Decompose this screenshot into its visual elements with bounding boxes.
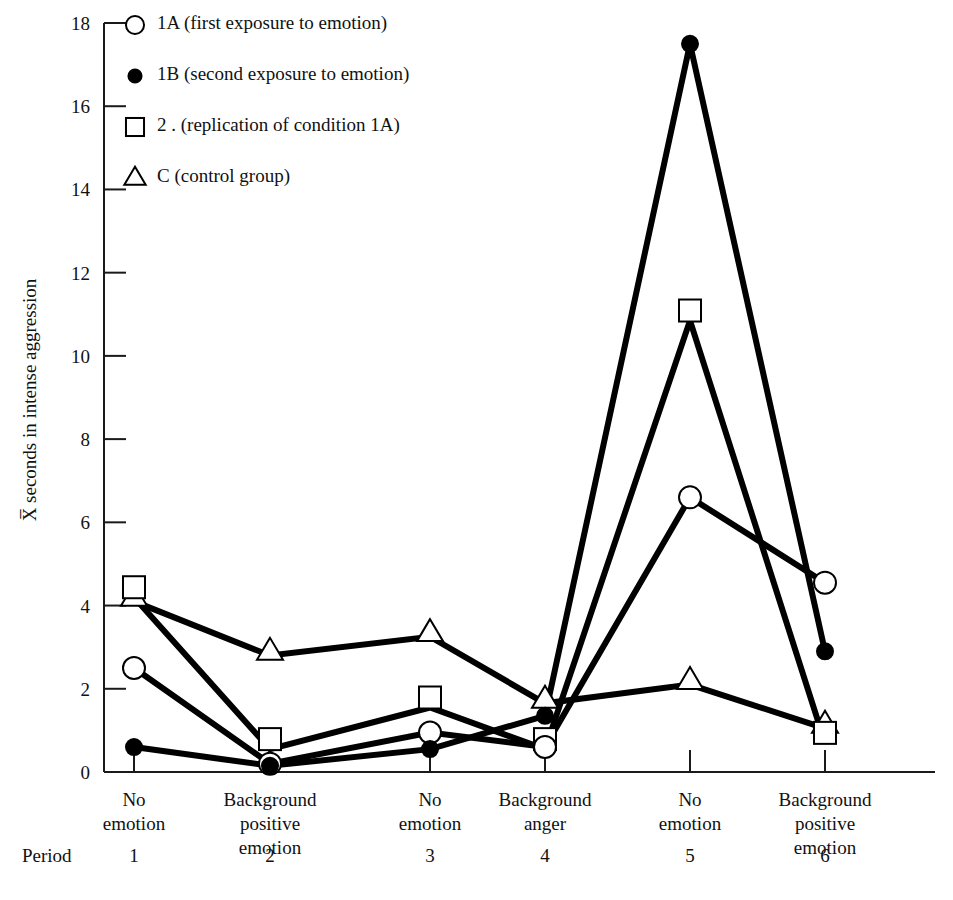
legend: 1A (first exposure to emotion)1B (second… (124, 12, 409, 187)
category-line: Background (499, 789, 592, 810)
category-line: Background (779, 789, 872, 810)
category-line: emotion (659, 813, 722, 834)
category-line: anger (524, 813, 567, 834)
x-category-label-4: Backgroundanger (499, 789, 592, 834)
data-point-2-period-3 (419, 687, 441, 709)
data-point-1A-period-4 (534, 736, 556, 758)
period-number-5: 5 (685, 845, 695, 866)
data-point-C-period-5 (677, 667, 703, 689)
y-tick-label-2: 2 (81, 679, 91, 700)
legend-label-2: 2 . (replication of condition 1A) (157, 114, 400, 136)
x-category-label-1: Noemotion (103, 789, 166, 834)
data-point-2-period-1 (123, 576, 145, 598)
legend-item-0: 1A (first exposure to emotion) (126, 12, 387, 34)
y-axis-tick-labels: 024681012141618 (71, 13, 91, 783)
legend-marker-filled-circle-icon (128, 69, 141, 82)
legend-item-3: C (control group) (124, 165, 290, 187)
data-point-1B-period-1 (126, 739, 142, 755)
data-point-C-period-3 (417, 619, 443, 641)
period-number-6: 6 (820, 845, 830, 866)
period-number-4: 4 (540, 845, 550, 866)
y-tick-label-16: 16 (71, 96, 90, 117)
x-axis-category-labels: NoemotionBackgroundpositiveemotionNoemot… (103, 789, 872, 858)
data-point-1A-period-5 (679, 486, 701, 508)
legend-marker-open-square-icon (126, 118, 144, 136)
y-tick-label-8: 8 (81, 429, 91, 450)
period-row-title: Period (22, 845, 72, 866)
category-line: emotion (103, 813, 166, 834)
legend-item-1: 1B (second exposure to emotion) (128, 63, 409, 85)
data-point-1B-period-2 (262, 758, 278, 774)
y-tick-label-12: 12 (71, 263, 90, 284)
category-line: No (418, 789, 441, 810)
category-line: positive (795, 813, 855, 834)
y-tick-label-4: 4 (81, 596, 91, 617)
legend-marker-open-circle-icon (126, 16, 144, 34)
aggression-line-chart: 024681012141618 X̅ seconds in intense ag… (0, 0, 953, 900)
data-point-2-period-5 (679, 300, 701, 322)
data-point-1A-period-6 (814, 572, 836, 594)
data-point-1B-period-4 (537, 708, 553, 724)
y-axis-title: X̅ seconds in intense aggression (19, 278, 40, 521)
y-tick-label-0: 0 (81, 762, 91, 783)
category-line: Background (224, 789, 317, 810)
legend-item-2: 2 . (replication of condition 1A) (126, 114, 400, 136)
y-tick-label-6: 6 (81, 512, 91, 533)
x-category-label-5: Noemotion (659, 789, 722, 834)
category-line: No (122, 789, 145, 810)
period-numbers: 123456 (129, 845, 830, 866)
x-category-label-3: Noemotion (399, 789, 462, 834)
legend-marker-open-triangle-icon (124, 167, 145, 185)
y-axis-ticks (104, 23, 126, 772)
data-point-1A-period-1 (123, 657, 145, 679)
data-point-2-period-6 (814, 722, 836, 744)
category-line: positive (240, 813, 300, 834)
data-point-1B-period-5 (682, 36, 698, 52)
y-tick-label-18: 18 (71, 13, 90, 34)
series-line-1B (134, 44, 825, 766)
period-number-2: 2 (265, 845, 275, 866)
data-point-1B-period-6 (817, 643, 833, 659)
period-number-1: 1 (129, 845, 139, 866)
y-tick-label-10: 10 (71, 346, 90, 367)
y-tick-label-14: 14 (71, 179, 91, 200)
chart-container: 024681012141618 X̅ seconds in intense ag… (0, 0, 953, 900)
series-line-2 (134, 321, 825, 750)
legend-label-3: C (control group) (157, 165, 290, 187)
data-point-1B-period-3 (422, 741, 438, 757)
legend-label-0: 1A (first exposure to emotion) (157, 12, 387, 34)
series-lines-group (134, 44, 825, 766)
category-line: No (678, 789, 701, 810)
category-line: emotion (399, 813, 462, 834)
legend-label-1: 1B (second exposure to emotion) (157, 63, 409, 85)
data-point-2-period-2 (259, 728, 281, 750)
period-number-3: 3 (425, 845, 435, 866)
